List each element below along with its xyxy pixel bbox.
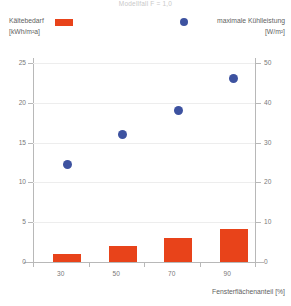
y-axis-left-tick	[28, 182, 33, 183]
grid-line	[33, 143, 255, 144]
y-axis-left-tick-label: 0	[4, 258, 26, 266]
y-axis-left-tick	[28, 143, 33, 144]
x-axis-tick	[89, 262, 90, 267]
data-point	[118, 130, 127, 139]
y-axis-left-tick	[28, 222, 33, 223]
y-axis-left-tick-label: 15	[4, 139, 26, 147]
data-point	[63, 160, 72, 169]
bar	[109, 246, 137, 262]
y-axis-left-tick-label: 25	[4, 59, 26, 67]
y-axis-right-tick-label: 40	[264, 99, 286, 107]
legend-swatch-circle-icon	[180, 18, 188, 26]
data-point	[174, 106, 183, 115]
x-axis-tick	[200, 262, 201, 267]
bar	[164, 238, 192, 262]
x-axis-tick	[144, 262, 145, 267]
y-axis-right-tick-label: 0	[264, 258, 286, 266]
chart-title: Modellfall F = 1,0	[0, 0, 291, 7]
x-axis-title: Fensterflächenanteil [%]	[212, 288, 285, 295]
y-axis-right-tick-label: 10	[264, 218, 286, 226]
x-axis-tick	[33, 262, 34, 267]
legend-swatch-square-icon	[55, 19, 73, 26]
x-axis-tick	[255, 262, 256, 267]
y-axis-right-tick	[256, 182, 261, 183]
y-axis-right-tick-label: 50	[264, 59, 286, 67]
y-axis-right-tick	[256, 143, 261, 144]
y-axis-right-tick	[256, 262, 261, 263]
y-axis-left	[33, 58, 34, 264]
y-axis-left-labels: 0510152025	[2, 0, 26, 306]
bar	[220, 229, 248, 262]
grid-line	[33, 222, 255, 223]
grid-line	[33, 63, 255, 64]
x-axis-tick-label: 70	[157, 270, 187, 277]
y-axis-right-tick	[256, 63, 261, 64]
y-axis-right-tick-label: 30	[264, 139, 286, 147]
y-axis-right	[255, 58, 256, 264]
x-axis-tick-label: 30	[46, 270, 76, 277]
y-axis-left-tick-label: 20	[4, 99, 26, 107]
y-axis-left-tick	[28, 103, 33, 104]
bar	[53, 254, 81, 262]
grid-line	[33, 182, 255, 183]
y-axis-left-tick	[28, 63, 33, 64]
y-axis-right-labels: 01020304050	[264, 0, 288, 306]
x-axis-tick-label: 50	[101, 270, 131, 277]
data-point	[229, 74, 238, 83]
x-axis-tick-label: 90	[212, 270, 242, 277]
y-axis-right-tick-label: 20	[264, 178, 286, 186]
y-axis-left-tick-label: 5	[4, 218, 26, 226]
y-axis-left-tick-label: 10	[4, 178, 26, 186]
y-axis-right-tick	[256, 103, 261, 104]
grid-line	[33, 103, 255, 104]
y-axis-right-tick	[256, 222, 261, 223]
